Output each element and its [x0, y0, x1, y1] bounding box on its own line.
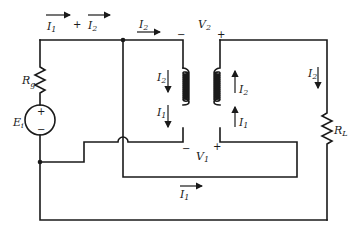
- secondary-loop-wire: [123, 40, 297, 177]
- label-i1-left-coil: I1: [156, 106, 166, 120]
- circuit-diagram: I1 + I2 I2 − V2 + I2 I1 I2 I1 I2 − + V1 …: [0, 0, 357, 235]
- label-ei: Ei: [12, 116, 24, 130]
- right-winding-coil: [214, 40, 220, 105]
- label-v2-minus: −: [177, 29, 185, 40]
- label-source-minus: −: [37, 124, 45, 135]
- label-i1-top: I1: [46, 20, 56, 34]
- source-resistor-rg: [35, 40, 45, 105]
- load-wire: [220, 40, 332, 220]
- label-i2-mid: I2: [138, 18, 148, 32]
- primary-return-wire: [40, 128, 183, 162]
- left-winding-coil: [183, 68, 189, 105]
- label-i2-left-coil: I2: [156, 71, 166, 85]
- label-rl: RL: [333, 124, 348, 138]
- label-i2-right-coil: I2: [238, 83, 248, 97]
- label-i2-top: I2: [87, 19, 97, 33]
- label-plus-top: +: [73, 19, 81, 30]
- label-source-plus: +: [37, 106, 45, 117]
- label-v1-plus: +: [213, 141, 221, 152]
- top-wire: [40, 40, 183, 68]
- label-i2-load: I2: [307, 67, 317, 81]
- label-v1: V1: [196, 150, 209, 164]
- label-i1-right-coil: I1: [238, 116, 248, 130]
- label-v2: V2: [198, 18, 211, 32]
- label-rg: Rg: [21, 74, 35, 89]
- label-v1-minus: −: [182, 143, 190, 154]
- label-v2-plus: +: [217, 29, 225, 40]
- label-i1-bottom: I1: [179, 188, 189, 202]
